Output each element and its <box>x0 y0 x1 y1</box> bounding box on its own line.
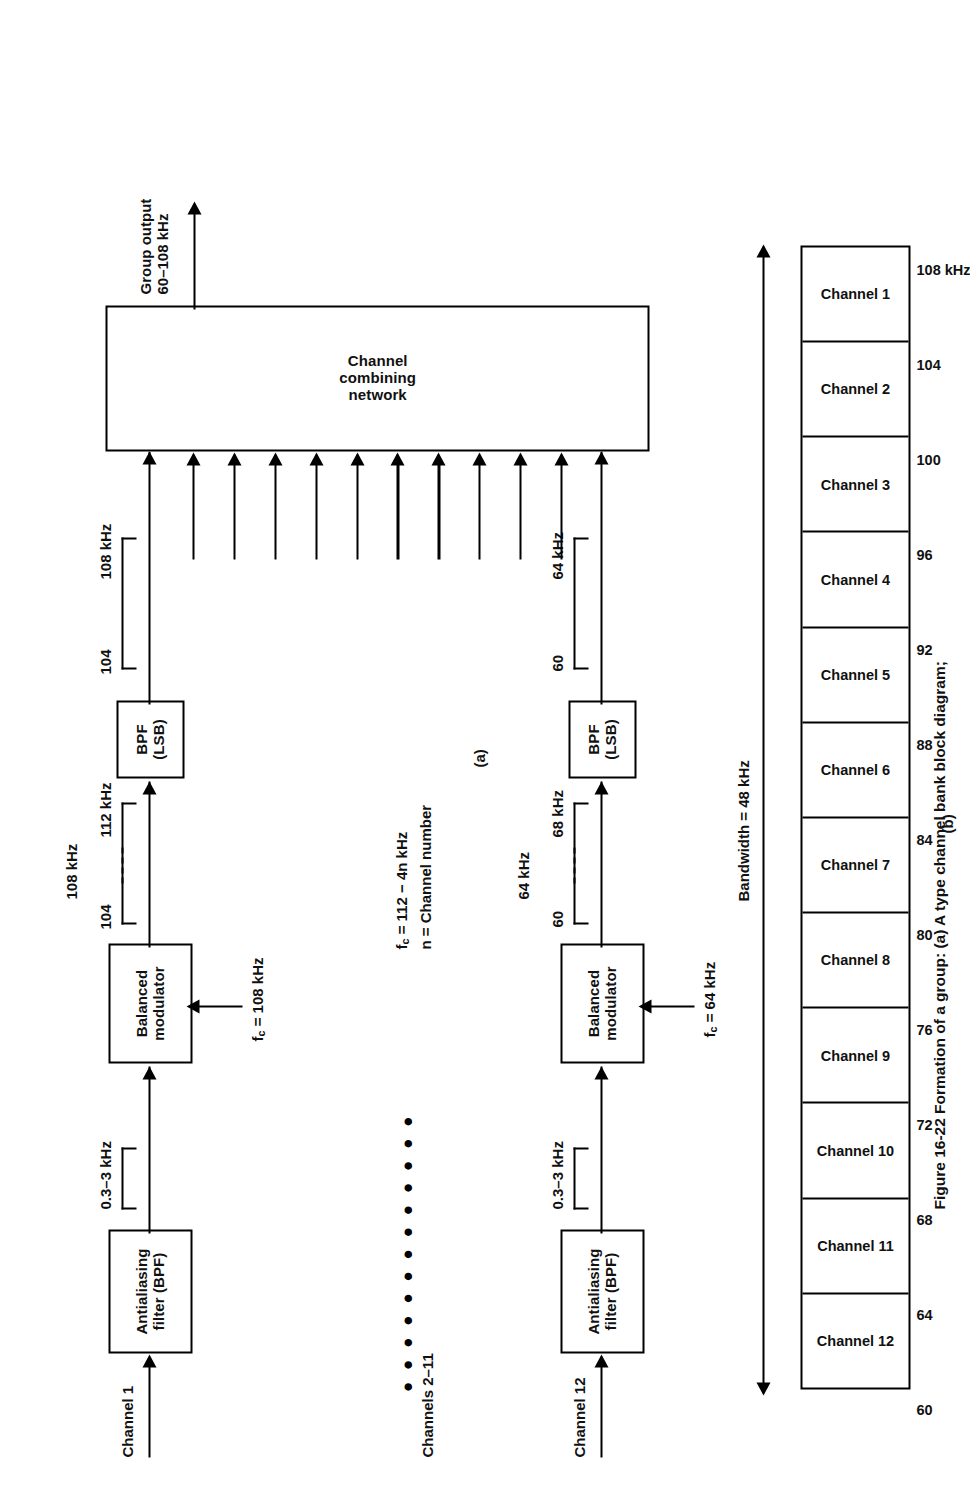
group-output-line <box>193 211 195 309</box>
group-spectrum: Channel 12Channel 11Channel 10Channel 9C… <box>800 245 910 1389</box>
combining-network-input-line <box>560 463 562 559</box>
balanced-modulator-12-line2: modulator <box>601 966 618 1040</box>
carrier-label-12-sub: c <box>707 1026 719 1032</box>
carrier-arrowhead-1 <box>186 999 199 1013</box>
spectrum-band-label: Channel 9 <box>820 1047 889 1063</box>
spectrum-band-label: Channel 1 <box>820 286 889 302</box>
channel12-input-label: Channel 12 <box>570 1377 587 1457</box>
spectrum-tick: 96 <box>916 546 932 562</box>
antialiasing-filter-12-line1: Antialiasing <box>584 1248 601 1334</box>
channel1-input-line <box>148 1365 150 1457</box>
lsb-span-bracket-12 <box>573 537 588 669</box>
spectrum-tick: 68 <box>916 1211 932 1227</box>
channel-combining-network: Channel combining network <box>105 305 649 451</box>
combining-network-input-line <box>192 463 194 559</box>
group-output-line1: Group output <box>136 198 153 294</box>
spectrum-tick: 92 <box>916 641 932 657</box>
combining-network-input-arrowhead <box>350 452 364 465</box>
spectrum-band: Channel 7 <box>802 816 908 911</box>
combining-network-input-arrowhead <box>554 452 568 465</box>
combining-network-input-line <box>274 463 276 559</box>
combining-network-input-line <box>315 463 317 559</box>
spectrum-band-label: Channel 12 <box>816 1332 893 1348</box>
group-output-arrowhead <box>187 201 201 214</box>
lsb-span-bracket-1 <box>121 537 136 669</box>
carrier-label-1: fc = 108 kHz <box>248 957 267 1041</box>
combining-network-input-arrowhead <box>431 452 445 465</box>
combining-network-input-line <box>519 463 521 559</box>
channels-ellipsis-dots: ••••••••••••• <box>392 1104 423 1391</box>
carrier-label-12-value: = 64 kHz <box>700 961 717 1026</box>
spectrum-band: Channel 5 <box>802 626 908 721</box>
carrier-arrowhead-12 <box>638 999 651 1013</box>
bandwidth-label: Bandwidth = 48 kHz <box>734 752 751 909</box>
spectrum-band-label: Channel 3 <box>820 476 889 492</box>
combining-network-input-line <box>396 463 398 559</box>
bpf-lsb-1: BPF (LSB) <box>116 700 184 778</box>
part-a-label: (a) <box>470 749 487 767</box>
carrier-formula-line2: n = Channel number <box>416 804 433 949</box>
lsb-line-1 <box>148 451 150 704</box>
spectrum-band: Channel 11 <box>802 1197 908 1292</box>
dsb-high-label-1: 112 kHz <box>96 782 113 837</box>
dsb-high-label-12: 68 kHz <box>548 789 565 837</box>
dsb-arrowhead-1 <box>142 781 156 794</box>
carrier-formula-f: f <box>392 944 409 949</box>
bandwidth-arrowhead-right <box>756 244 770 257</box>
combining-network-input-arrowhead <box>472 452 486 465</box>
carrier-line-1 <box>196 1005 242 1007</box>
spectrum-band: Channel 2 <box>802 340 908 435</box>
spectrum-band-label: Channel 4 <box>820 571 889 587</box>
carrier-formula-line1: fc = 112 − 4n kHz <box>392 831 411 949</box>
bpf-lsb-12-line1: BPF <box>584 724 601 754</box>
baseband-span-bracket-1 <box>121 1147 136 1209</box>
middle-channels-label: Channels 2–11 <box>418 1353 435 1457</box>
bpf-lsb-1-line1: BPF <box>132 724 149 754</box>
combining-network-line2: combining <box>339 369 416 386</box>
combining-network-input-arrowhead <box>227 452 241 465</box>
spectrum-band-label: Channel 11 <box>817 1237 894 1253</box>
dsb-center-dash-1 <box>121 847 123 883</box>
carrier-label-12-f: f <box>700 1032 717 1037</box>
lsb-low-label-1: 104 <box>96 649 113 674</box>
channel1-input-arrowhead <box>142 1354 156 1367</box>
bandwidth-arrowhead-left <box>756 1382 770 1395</box>
channel1-input-label: Channel 1 <box>118 1385 135 1457</box>
antialiasing-filter-1-line2: filter (BPF) <box>149 1252 166 1330</box>
balanced-modulator-12: Balanced modulator <box>560 943 644 1063</box>
combining-network-input-arrowhead <box>186 452 200 465</box>
group-output-line2: 60–108 kHz <box>153 213 170 294</box>
spectrum-band-label: Channel 8 <box>820 952 889 968</box>
baseband-span-label-1: 0.3–3 kHz <box>96 1141 113 1209</box>
carrier-formula-sub: c <box>399 938 411 944</box>
carrier-label-12: fc = 64 kHz <box>700 961 719 1037</box>
carrier-formula-rest: = 112 − 4n kHz <box>392 831 409 938</box>
antialiasing-filter-12-line2: filter (BPF) <box>601 1252 618 1330</box>
dsb-line-12 <box>600 781 602 947</box>
figure-caption: Figure 16-22 Formation of a group: (a) A… <box>930 661 948 1209</box>
group-output-label: Group output 60–108 kHz <box>136 198 171 294</box>
combining-network-input-line <box>478 463 480 559</box>
spectrum-tick: 104 <box>916 356 940 372</box>
spectrum-band: Channel 12 <box>802 1292 908 1387</box>
spectrum-band: Channel 8 <box>802 911 908 1006</box>
bpf-lsb-12-line2: (LSB) <box>601 719 618 760</box>
dsb-center-label-1: 108 kHz <box>62 843 79 899</box>
spectrum-band-label: Channel 5 <box>820 666 889 682</box>
combining-network-input-line <box>437 463 439 559</box>
combining-network-input-arrowhead <box>390 452 404 465</box>
channel12-input-arrowhead <box>594 1354 608 1367</box>
combining-network-input-arrowhead <box>268 452 282 465</box>
dsb-low-label-1: 104 <box>96 904 113 929</box>
bpf-lsb-12: BPF (LSB) <box>568 700 636 778</box>
baseband-span-bracket-12 <box>573 1147 588 1209</box>
combining-network-input-line <box>233 463 235 559</box>
dsb-arrowhead-12 <box>594 781 608 794</box>
balanced-modulator-1-line1: Balanced <box>132 969 149 1037</box>
spectrum-tick: 108 kHz <box>916 261 970 277</box>
antialiasing-filter-1-line1: Antialiasing <box>132 1248 149 1334</box>
dsb-line-1 <box>148 781 150 947</box>
spectrum-band-label: Channel 7 <box>820 857 889 873</box>
combining-network-input-arrowhead <box>513 452 527 465</box>
